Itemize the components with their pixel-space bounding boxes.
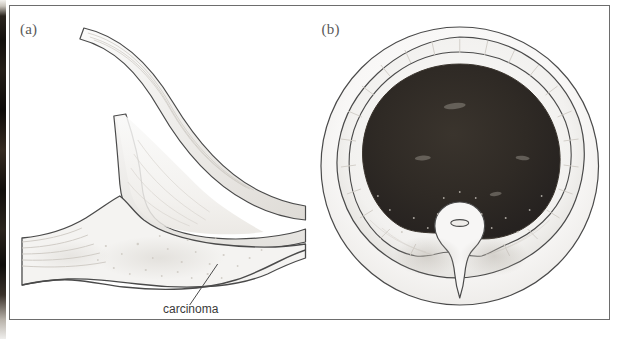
canal-shadow-left <box>393 236 461 276</box>
figure-page: (a) carcinoma <box>0 0 640 339</box>
canal-shadow-right <box>459 236 527 276</box>
panel-b: (b) <box>310 6 610 319</box>
left-soft-shadow <box>30 240 110 272</box>
figure-frame: (a) carcinoma <box>9 5 610 320</box>
panel-a: (a) carcinoma <box>10 6 310 319</box>
carcinoma-label: carcinoma <box>163 302 218 316</box>
panel-a-label: (a) <box>20 21 37 38</box>
panel-a-illustration <box>10 6 310 319</box>
panel-b-label: (b) <box>322 21 340 38</box>
central-canal-lumen <box>450 220 468 227</box>
scan-edge-artifact <box>0 0 6 339</box>
carcinoma-soft-shadow <box>96 236 224 280</box>
panel-b-illustration <box>310 6 610 319</box>
